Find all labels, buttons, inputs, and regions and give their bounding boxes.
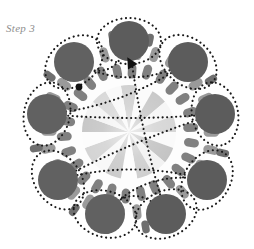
circle-right	[195, 94, 235, 134]
diagram-canvas	[0, 0, 254, 249]
circle-lower-left	[38, 160, 78, 200]
rod-fringe-13	[42, 69, 57, 83]
figure-root: Step 3	[0, 0, 254, 249]
circle-left	[27, 94, 67, 134]
circle-upper-right	[168, 42, 208, 82]
circle-top	[109, 21, 149, 61]
circle-bottom-left	[85, 194, 125, 234]
dot-marker	[76, 84, 83, 91]
circle-bottom-right	[146, 194, 186, 234]
circle-lower-right	[187, 160, 227, 200]
rod-inner-19	[56, 132, 72, 142]
circle-upper-left	[54, 42, 94, 82]
